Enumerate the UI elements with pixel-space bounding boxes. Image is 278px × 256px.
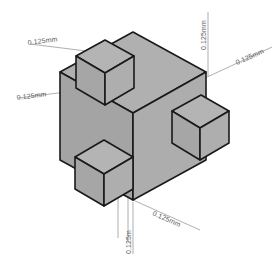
isometric-cube-drawing: 0.125mm 0.125mm 0.125mm 0.125mm 0.125mm … [0, 0, 278, 256]
dimension-label-bottom-right-diagonal: 0.125mm [152, 210, 182, 229]
dimension-label-top-right-diagonal: 0.125mm [235, 47, 265, 66]
dimension-label-top-right-vertical: 0.125mm [200, 20, 207, 50]
dimension-label-left-upper: 0.125mm [27, 35, 58, 46]
drawing-canvas: 0.125mm 0.125mm 0.125mm 0.125mm 0.125mm … [0, 0, 278, 256]
dimension-label-left-lower: 0.125mm [16, 90, 47, 101]
dimension-label-bottom-vertical: 0.125m [125, 230, 132, 254]
